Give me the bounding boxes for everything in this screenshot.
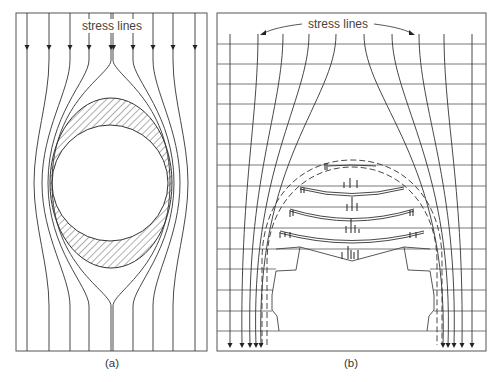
dashed-arches	[262, 160, 442, 345]
grid-lines	[217, 44, 486, 331]
caption-b: (b)	[344, 357, 358, 369]
caption-a: (a)	[105, 357, 119, 369]
figure-canvas: stress lines (a)	[0, 0, 498, 382]
stress-lines-b	[230, 34, 472, 346]
panel-b: stress lines (b)	[217, 13, 486, 369]
hatched-ring	[50, 98, 172, 268]
crack-marks	[280, 163, 416, 259]
arrowheads-b	[228, 343, 475, 348]
stress-lines-label-b: stress lines	[308, 17, 368, 31]
panel-a: stress lines (a)	[16, 13, 207, 369]
tunnel-outline	[272, 247, 434, 331]
arrowheads-a	[25, 45, 198, 50]
stress-lines-label-a: stress lines	[82, 19, 142, 33]
